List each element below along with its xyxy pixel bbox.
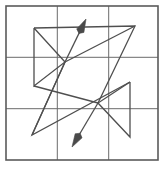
figure-canvas: [0, 0, 165, 169]
geometric-figure: [0, 0, 165, 169]
